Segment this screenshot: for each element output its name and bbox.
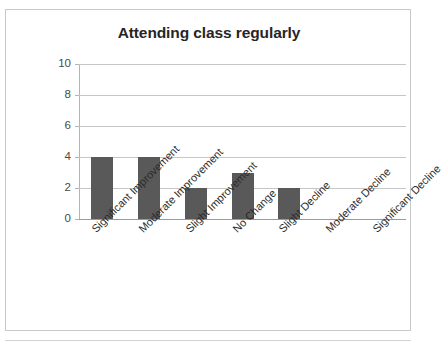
y-tick-label-10: 10: [58, 58, 71, 70]
y-tick-label-8: 8: [65, 89, 71, 101]
y-tick-mark-0: [75, 219, 79, 220]
bottom-divider: [5, 340, 411, 341]
y-tick-label-0: 0: [65, 213, 71, 225]
chart-figure-frame: Attending class regularly 0246810 Signif…: [5, 9, 411, 331]
y-tick-label-4: 4: [65, 151, 71, 163]
y-tick-label-2: 2: [65, 182, 71, 194]
y-tick-label-6: 6: [65, 120, 71, 132]
chart-title: Attending class regularly: [6, 24, 412, 42]
